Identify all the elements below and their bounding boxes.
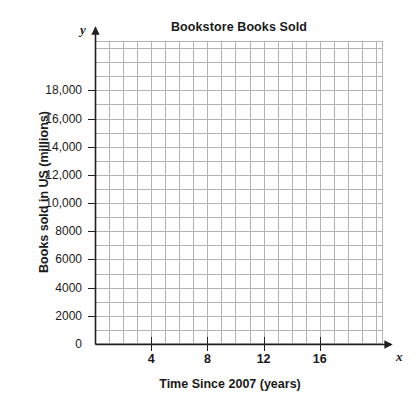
chart-figure: Bookstore Books Sold 0200040006000800010… — [0, 0, 416, 408]
x-axis-tick-labels: 481216 — [0, 0, 416, 408]
y-axis-title: Books sold in US (millions) — [37, 62, 51, 322]
x-axis-title: Time Since 2007 (years) — [60, 377, 400, 391]
x-axis-tick-label: 4 — [131, 352, 171, 366]
x-axis-tick-label: 12 — [244, 352, 284, 366]
x-axis-variable-label: x — [396, 349, 403, 365]
y-axis-variable-label: y — [80, 22, 86, 38]
x-axis-tick-label: 8 — [187, 352, 227, 366]
x-axis-tick-label: 16 — [300, 352, 340, 366]
